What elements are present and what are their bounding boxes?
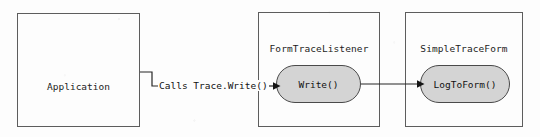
- edge-label-calls-trace-write: Calls Trace.Write(): [158, 80, 269, 91]
- arrowhead-into-write-icon: [273, 82, 281, 90]
- connector-layer: [0, 0, 540, 137]
- arrowhead-into-logtoform-icon: [417, 80, 425, 88]
- diagram-canvas: Application FormTraceListener Write() Si…: [0, 0, 540, 137]
- edge-application-to-write-elbow: [140, 72, 158, 86]
